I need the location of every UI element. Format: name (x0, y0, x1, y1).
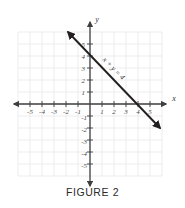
x-tick-label: 4 (136, 108, 140, 116)
y-tick-label: -3 (81, 138, 87, 146)
x-tick-label: 1 (100, 108, 104, 116)
x-axis-letter: x (171, 94, 176, 103)
y-tick-label: 4 (82, 53, 86, 61)
x-tick-label: 3 (123, 108, 128, 116)
y-tick-label: 2 (82, 77, 86, 85)
x-tick-label: 2 (112, 108, 116, 116)
y-tick-label: -5 (81, 162, 87, 170)
y-axis-tick-labels: 5 4 3 2 1 -1 -2 -3 -4 -5 (81, 41, 88, 170)
x-tick-label: -3 (51, 108, 57, 116)
x-tick-label: 5 (148, 108, 152, 116)
figure-caption: FIGURE 2 (0, 186, 185, 198)
x-tick-label: -2 (63, 108, 69, 116)
x-tick-label: -5 (27, 108, 33, 116)
coordinate-plane-chart: -5 -4 -3 -2 -1 1 2 3 4 5 5 4 3 2 1 -1 -2… (0, 0, 185, 208)
y-tick-label: -1 (81, 114, 87, 122)
y-tick-label: 3 (81, 65, 86, 73)
figure-container: -5 -4 -3 -2 -1 1 2 3 4 5 5 4 3 2 1 -1 -2… (0, 0, 185, 208)
y-tick-label: 1 (82, 89, 86, 97)
x-tick-label: -4 (39, 108, 45, 116)
x-tick-label: -1 (75, 108, 81, 116)
y-axis-letter: y (94, 15, 99, 24)
y-tick-label: -2 (81, 126, 87, 134)
y-tick-label: -4 (81, 150, 87, 158)
